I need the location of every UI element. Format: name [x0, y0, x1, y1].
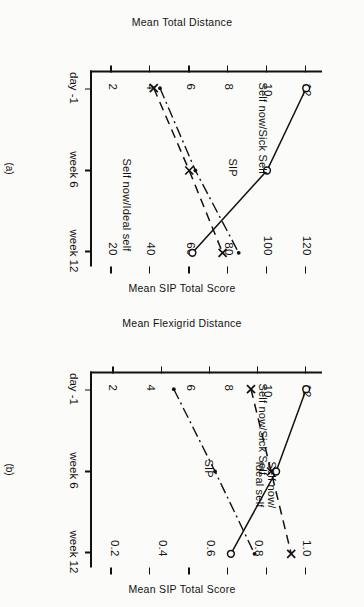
panel-b-label-ideal-self-line2: Ideal self — [254, 461, 266, 507]
panel-b-left-axis-title: Mean Flexigrid Distance — [122, 317, 242, 328]
panel-a-xlabel-0: day -1 — [68, 72, 80, 104]
panel-a-tag: (a) — [4, 162, 15, 174]
panel-a-label-sick-self: Self now/Sick Self — [256, 82, 268, 174]
panel-a-xlabel-2: week 12 — [68, 229, 80, 272]
panel-a-right-axis-title: Mean SIP Total Score — [128, 282, 235, 293]
series-self-now-sick-self-a — [189, 84, 310, 255]
panel-a-xlabel-1: week 6 — [68, 151, 80, 187]
figure: Mean Total Distance Mean SIP Total Score… — [0, 0, 364, 607]
rotated-page-stage: Mean Total Distance Mean SIP Total Score… — [0, 0, 364, 607]
panel-b-label-ideal-self-line1: Self now/ — [266, 461, 278, 508]
panel-b-xlabel-0: day -1 — [68, 373, 80, 405]
panel-b-tag: (b) — [4, 463, 15, 475]
panel-b-xlabel-1: week 6 — [68, 452, 80, 488]
panel-a-left-axis-title: Mean Total Distance — [132, 16, 233, 27]
panel-b-label-sip: SIP — [202, 459, 214, 477]
panel-b-right-axis-title: Mean SIP Total Score — [128, 583, 235, 594]
panel-a-label-ideal-self: Self now/Ideal self — [120, 158, 132, 251]
chart-panel-a: Mean Total Distance Mean SIP Total Score… — [0, 8, 364, 298]
panel-b-xlabel-2: week 12 — [68, 530, 80, 573]
panel-b-label-ideal-self: Self now/ Ideal self — [253, 461, 278, 508]
panel-a-label-sip: SIP — [226, 158, 238, 176]
series-self-now-ideal-self-a — [150, 84, 227, 257]
chart-panel-b: Mean Flexigrid Distance Mean SIP Total S… — [0, 309, 364, 599]
panel-a-series-svg — [80, 62, 332, 278]
